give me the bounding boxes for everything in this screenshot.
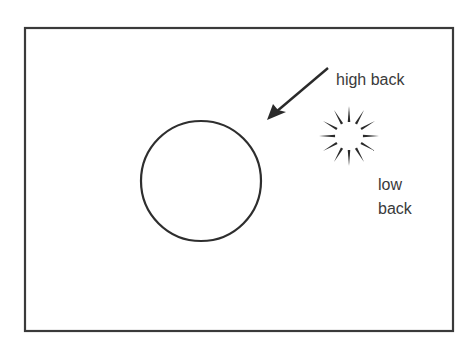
subject-circle — [141, 121, 261, 241]
label-back: back — [378, 200, 413, 217]
label-low: low — [378, 176, 402, 193]
lighting-diagram: high back low back — [0, 0, 476, 344]
label-high-back: high back — [336, 71, 405, 88]
arrow-icon — [267, 68, 328, 120]
sun-icon — [319, 106, 379, 166]
